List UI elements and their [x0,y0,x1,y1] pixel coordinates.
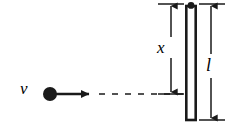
pivot-point [188,2,195,9]
rod-length-label: l [206,56,211,74]
impact-distance-label: x [157,39,165,56]
projectile-ball [43,87,57,101]
physics-diagram-figure: v x l [0,0,228,128]
pivoted-rod [186,6,195,120]
velocity-label: v [20,80,28,97]
diagram-canvas [0,0,228,128]
